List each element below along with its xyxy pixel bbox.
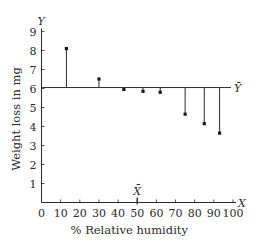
data-point	[218, 132, 221, 135]
x-tick-label: 70	[169, 207, 183, 220]
y-tick-label: 1	[30, 178, 37, 191]
y-tick-label: 8	[30, 45, 37, 58]
data-point	[184, 113, 187, 116]
x-tick-label: 40	[111, 207, 125, 220]
x-tick-label: 80	[188, 207, 202, 220]
x-axis-letter: X	[237, 197, 247, 210]
data-point	[141, 90, 144, 93]
residual-plot: 0102030405060708090100123456789 X̄ȲXY% R…	[0, 0, 259, 252]
y-tick-label: 7	[30, 64, 37, 77]
x-tick-label: 30	[92, 207, 106, 220]
data-point	[97, 77, 100, 80]
x-tick-label: 0	[38, 207, 45, 220]
x-axis-title: % Relative humidity	[71, 223, 189, 237]
x-tick-label: 60	[149, 207, 163, 220]
y-tick-label: 5	[30, 102, 37, 115]
data-point	[65, 47, 68, 50]
mean-y-label: Ȳ	[234, 82, 243, 95]
axes	[42, 29, 237, 203]
y-tick-label: 2	[30, 159, 37, 172]
y-tick-label: 3	[30, 140, 37, 153]
data-point	[159, 91, 162, 94]
y-axis-title: Weight loss in mg	[9, 67, 23, 171]
data-points	[65, 47, 221, 135]
y-tick-label: 9	[30, 26, 37, 39]
x-tick-label: 50	[130, 207, 144, 220]
axis-labels: X̄ȲXY% Relative humidityWeight loss in m…	[9, 15, 247, 238]
data-point	[203, 122, 206, 125]
y-axis-letter: Y	[38, 15, 47, 28]
mean-x-label: X̄	[132, 184, 142, 197]
data-point	[122, 88, 125, 91]
x-tick-label: 10	[54, 207, 68, 220]
y-tick-label: 6	[30, 83, 37, 96]
x-tick-label: 20	[73, 207, 87, 220]
x-tick-label: 90	[207, 207, 221, 220]
y-tick-label: 4	[30, 121, 37, 134]
